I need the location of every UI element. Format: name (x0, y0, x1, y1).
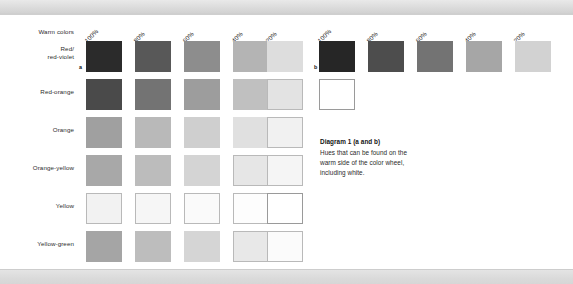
swatch-a-r5-c5 (267, 193, 303, 224)
swatch-b-r1-c1 (319, 41, 355, 72)
swatch-a-r6-c4 (233, 231, 269, 262)
scan-band-top (0, 0, 573, 13)
row-label-orange: Orange (53, 126, 74, 134)
swatch-a-r6-c3 (184, 231, 220, 262)
row-label-red-orange: Red-orange (40, 88, 74, 96)
swatch-a-r5-c4 (233, 193, 269, 224)
scan-band-bottom (0, 270, 573, 284)
swatch-a-r4-c4 (233, 155, 269, 186)
swatch-a-r3-c2 (135, 117, 171, 148)
swatch-a-r1-c1 (86, 41, 122, 72)
swatch-a-r4-c3 (184, 155, 220, 186)
row-label-red-red-violet: Red/ red-violet (48, 45, 74, 62)
swatch-a-r3-c3 (184, 117, 220, 148)
swatch-a-r1-c3 (184, 41, 220, 72)
caption-body: Hues that can be found on the warm side … (320, 148, 490, 179)
caption-block: Diagram 1 (a and b) Hues that can be fou… (320, 137, 490, 179)
swatch-a-r4-c5 (267, 155, 303, 186)
caption-line-2: warm side of the color wheel, (320, 159, 404, 166)
swatch-b-r1-c4 (466, 41, 502, 72)
row-label-yellow-green: Yellow-green (37, 240, 74, 248)
swatch-a-r2-c5 (267, 79, 303, 110)
marker-b: b (314, 64, 317, 70)
swatch-b-r1-c2 (368, 41, 404, 72)
swatch-b-r1-c5 (515, 41, 551, 72)
swatch-a-r3-c4 (233, 117, 269, 148)
swatch-a-r6-c2 (135, 231, 171, 262)
row-label-line-2: red-violet (48, 53, 74, 60)
row-label-line-1: Red/ (61, 45, 74, 52)
swatch-a-r5-c1 (86, 193, 122, 224)
row-label-yellow: Yellow (56, 202, 74, 210)
diagram-figure: Warm colors Red/ red-violet Red-orange O… (0, 15, 573, 269)
swatch-a-r1-c2 (135, 41, 171, 72)
row-label-orange-yellow: Orange-yellow (33, 164, 74, 172)
warm-colors-label: Warm colors (38, 28, 74, 36)
swatch-a-r5-c3 (184, 193, 220, 224)
row-label-column: Warm colors Red/ red-violet Red-orange O… (0, 15, 80, 269)
swatch-a-r2-c2 (135, 79, 171, 110)
marker-a: a (79, 64, 82, 70)
swatch-a-r2-c1 (86, 79, 122, 110)
swatch-a-r1-c4 (233, 41, 269, 72)
caption-line-3: including white. (320, 169, 365, 176)
swatch-b-r1-c3 (417, 41, 453, 72)
caption-title: Diagram 1 (a and b) (320, 137, 490, 147)
swatch-a-r3-c5 (267, 117, 303, 148)
swatch-a-r1-c5 (267, 41, 303, 72)
swatch-a-r4-c1 (86, 155, 122, 186)
caption-line-1: Hues that can be found on the (320, 149, 407, 156)
swatch-a-r2-c4 (233, 79, 269, 110)
swatch-a-r4-c2 (135, 155, 171, 186)
swatch-a-r3-c1 (86, 117, 122, 148)
swatch-a-r6-c5 (267, 231, 303, 262)
swatch-a-r6-c1 (86, 231, 122, 262)
swatch-a-r5-c2 (135, 193, 171, 224)
swatch-a-r2-c3 (184, 79, 220, 110)
swatch-b-white (319, 79, 355, 110)
